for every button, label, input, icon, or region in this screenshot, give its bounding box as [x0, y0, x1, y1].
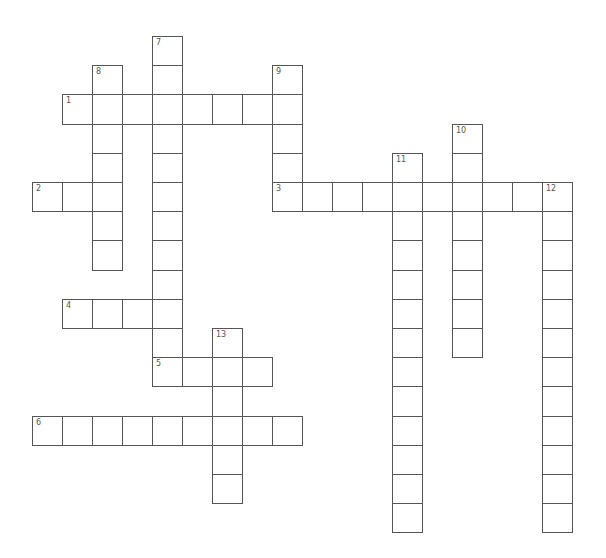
crossword-cell[interactable]: 5 — [152, 357, 183, 387]
crossword-cell[interactable] — [152, 240, 183, 270]
crossword-cell[interactable] — [542, 445, 573, 475]
crossword-cell[interactable]: 1 — [62, 94, 93, 124]
crossword-cell[interactable]: 3 — [272, 182, 303, 212]
crossword-cell[interactable]: 2 — [32, 182, 63, 212]
crossword-cell[interactable] — [92, 94, 123, 124]
crossword-cell[interactable] — [152, 153, 183, 183]
clue-number: 11 — [396, 155, 406, 165]
crossword-cell[interactable] — [452, 328, 483, 358]
crossword-cell[interactable] — [392, 240, 423, 270]
crossword-cell[interactable] — [542, 328, 573, 358]
crossword-cell[interactable] — [212, 416, 243, 446]
crossword-cell[interactable] — [92, 182, 123, 212]
crossword-cell[interactable] — [212, 474, 243, 504]
crossword-cell[interactable] — [122, 299, 153, 329]
crossword-cell[interactable] — [392, 445, 423, 475]
crossword-cell[interactable]: 7 — [152, 36, 183, 66]
crossword-cell[interactable] — [452, 299, 483, 329]
crossword-cell[interactable] — [542, 299, 573, 329]
crossword-cell[interactable] — [272, 416, 303, 446]
crossword-cell[interactable] — [92, 124, 123, 154]
crossword-cell[interactable] — [272, 94, 303, 124]
clue-number: 4 — [66, 301, 71, 311]
crossword-cell[interactable] — [272, 124, 303, 154]
crossword-cell[interactable] — [62, 182, 93, 212]
crossword-cell[interactable] — [392, 328, 423, 358]
crossword-cell[interactable] — [362, 182, 393, 212]
crossword-cell[interactable] — [122, 94, 153, 124]
crossword-cell[interactable] — [392, 182, 423, 212]
clue-number: 8 — [96, 67, 101, 77]
crossword-cell[interactable] — [392, 416, 423, 446]
crossword-cell[interactable] — [92, 416, 123, 446]
crossword-cell[interactable] — [482, 182, 513, 212]
crossword-cell[interactable] — [152, 270, 183, 300]
crossword-cell[interactable] — [392, 211, 423, 241]
clue-number: 12 — [546, 184, 556, 194]
crossword-cell[interactable] — [452, 240, 483, 270]
clue-number: 1 — [66, 96, 71, 106]
crossword-cell[interactable] — [242, 94, 273, 124]
crossword-cell[interactable] — [302, 182, 333, 212]
crossword-cell[interactable]: 12 — [542, 182, 573, 212]
crossword-cell[interactable]: 9 — [272, 65, 303, 95]
crossword-cell[interactable] — [542, 270, 573, 300]
crossword-cell[interactable] — [212, 94, 243, 124]
crossword-cell[interactable] — [242, 416, 273, 446]
crossword-cell[interactable] — [212, 386, 243, 416]
crossword-cell[interactable] — [92, 299, 123, 329]
crossword-cell[interactable] — [182, 357, 213, 387]
crossword-cell[interactable] — [542, 474, 573, 504]
crossword-cell[interactable] — [182, 94, 213, 124]
crossword-cell[interactable] — [392, 299, 423, 329]
crossword-cell[interactable] — [392, 386, 423, 416]
clue-number: 6 — [36, 418, 41, 428]
crossword-cell[interactable] — [152, 94, 183, 124]
crossword-cell[interactable] — [452, 211, 483, 241]
crossword-cell[interactable] — [392, 270, 423, 300]
clue-number: 10 — [456, 126, 466, 136]
crossword-cell[interactable] — [242, 357, 273, 387]
crossword-cell[interactable] — [152, 328, 183, 358]
crossword-cell[interactable] — [512, 182, 543, 212]
crossword-cell[interactable] — [212, 445, 243, 475]
crossword-cell[interactable] — [542, 357, 573, 387]
crossword-cell[interactable] — [392, 503, 423, 533]
crossword-cell[interactable] — [152, 65, 183, 95]
crossword-cell[interactable]: 10 — [452, 124, 483, 154]
crossword-cell[interactable]: 8 — [92, 65, 123, 95]
clue-number: 3 — [276, 184, 281, 194]
crossword-cell[interactable] — [452, 270, 483, 300]
crossword-cell[interactable]: 4 — [62, 299, 93, 329]
crossword-cell[interactable]: 6 — [32, 416, 63, 446]
crossword-grid: 12312456789101113 — [0, 0, 606, 558]
crossword-cell[interactable] — [212, 357, 243, 387]
crossword-cell[interactable] — [542, 386, 573, 416]
crossword-cell[interactable] — [152, 124, 183, 154]
crossword-cell[interactable]: 11 — [392, 153, 423, 183]
crossword-cell[interactable] — [152, 416, 183, 446]
crossword-cell[interactable] — [182, 416, 213, 446]
crossword-cell[interactable] — [422, 182, 453, 212]
crossword-cell[interactable] — [92, 211, 123, 241]
clue-number: 13 — [216, 330, 226, 340]
crossword-cell[interactable] — [452, 153, 483, 183]
crossword-cell[interactable] — [542, 416, 573, 446]
crossword-cell[interactable] — [92, 153, 123, 183]
crossword-cell[interactable] — [452, 182, 483, 212]
crossword-cell[interactable] — [152, 182, 183, 212]
crossword-cell[interactable] — [392, 357, 423, 387]
crossword-cell[interactable] — [542, 211, 573, 241]
crossword-cell[interactable] — [542, 503, 573, 533]
crossword-cell[interactable]: 13 — [212, 328, 243, 358]
crossword-cell[interactable] — [62, 416, 93, 446]
crossword-cell[interactable] — [92, 240, 123, 270]
crossword-cell[interactable] — [152, 211, 183, 241]
clue-number: 5 — [156, 359, 161, 369]
crossword-cell[interactable] — [272, 153, 303, 183]
crossword-cell[interactable] — [542, 240, 573, 270]
crossword-cell[interactable] — [392, 474, 423, 504]
crossword-cell[interactable] — [332, 182, 363, 212]
crossword-cell[interactable] — [122, 416, 153, 446]
crossword-cell[interactable] — [152, 299, 183, 329]
